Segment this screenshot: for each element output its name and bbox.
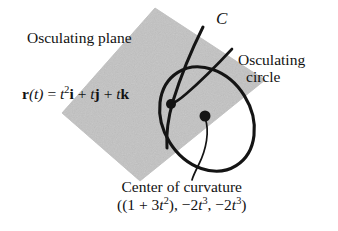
center-of-curvature-caption: Center of curvature ((1 + 3t2), −2t3, −2…: [117, 178, 246, 214]
coord-open: ((1 + 3: [117, 196, 159, 213]
osculating-circle-label-line1: Osculating: [238, 51, 305, 68]
vector-equation-label: r(t) = t2i + tj + tk: [22, 86, 129, 103]
osculating-plane-label: Osculating plane: [27, 30, 132, 47]
curve-c-label: C: [216, 10, 227, 28]
osculating-circle-label-line2: circle: [238, 69, 305, 86]
coord-mid: ), −2: [169, 196, 198, 213]
center-of-curvature-dot: [200, 111, 211, 122]
center-caption-coordinates: ((1 + 3t2), −2t3, −2t3): [117, 196, 246, 214]
equation-r-symbol: r: [22, 85, 29, 102]
osculating-circle-label: Osculating circle: [238, 52, 305, 85]
equation-equals: =: [44, 85, 61, 102]
equation-plus-2: +: [100, 85, 117, 102]
equation-term3-unit: k: [121, 85, 130, 102]
coord-close: ): [241, 196, 246, 213]
center-caption-title: Center of curvature: [121, 178, 242, 195]
equation-plus-1: +: [74, 85, 91, 102]
point-on-curve-dot: [166, 99, 176, 109]
coord-mid2: , −2: [208, 196, 232, 213]
equation-argument: (t): [29, 85, 44, 102]
